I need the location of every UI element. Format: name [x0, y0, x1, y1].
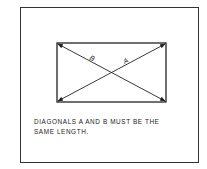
label-a: A	[121, 56, 130, 65]
caption-line-2: SAME LENGTH.	[34, 127, 194, 137]
caption-line-1: DIAGONALS A AND B MUST BE THE	[34, 117, 194, 127]
caption: DIAGONALS A AND B MUST BE THE SAME LENGT…	[34, 117, 194, 137]
rectangle-diagram: B A	[0, 0, 207, 169]
